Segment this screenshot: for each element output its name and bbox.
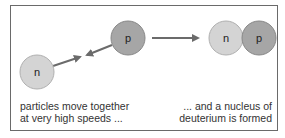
svg-text:n: n xyxy=(223,32,229,44)
neutron-particle-left: n xyxy=(20,55,54,89)
caption-left-line2: at very high speeds ... xyxy=(20,112,129,124)
neutron-particle-right: n xyxy=(209,21,243,55)
caption-left-line1: particles move together xyxy=(20,100,129,112)
proton-arrow xyxy=(87,45,112,55)
deuterium-nucleus: n p xyxy=(209,21,276,55)
caption-right-line2: deuterium is formed xyxy=(179,112,272,124)
svg-text:n: n xyxy=(34,66,40,78)
neutron-arrow xyxy=(53,57,80,66)
caption-left: particles move together at very high spe… xyxy=(20,100,129,124)
proton-particle-right: p xyxy=(242,21,276,55)
svg-text:p: p xyxy=(125,32,131,44)
svg-text:p: p xyxy=(256,32,262,44)
caption-right: ... and a nucleus of deuterium is formed xyxy=(179,100,272,124)
proton-particle-left: p xyxy=(111,21,145,55)
caption-right-line1: ... and a nucleus of xyxy=(179,100,272,112)
